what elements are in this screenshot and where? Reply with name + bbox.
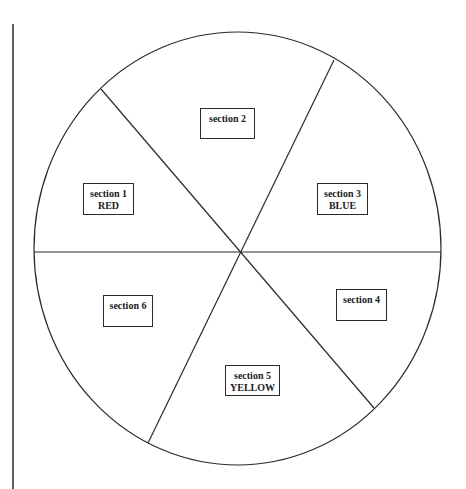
section-5-color: YELLOW	[226, 382, 279, 394]
section-4-title: section 4	[337, 294, 386, 306]
section-1-color: RED	[84, 200, 133, 212]
section-2-title: section 2	[201, 113, 254, 125]
sectioned-circle-diagram	[0, 0, 466, 489]
section-3-color: BLUE	[318, 200, 367, 212]
section-3-label: section 3 BLUE	[317, 183, 368, 215]
section-1-label: section 1 RED	[83, 183, 134, 215]
section-2-label: section 2	[200, 108, 255, 139]
section-1-title: section 1	[84, 188, 133, 200]
section-5-title: section 5	[226, 370, 279, 382]
section-3-title: section 3	[318, 188, 367, 200]
section-6-title: section 6	[104, 300, 152, 312]
section-4-label: section 4	[336, 289, 387, 321]
section-5-label: section 5 YELLOW	[225, 365, 280, 396]
section-6-label: section 6	[103, 295, 153, 327]
